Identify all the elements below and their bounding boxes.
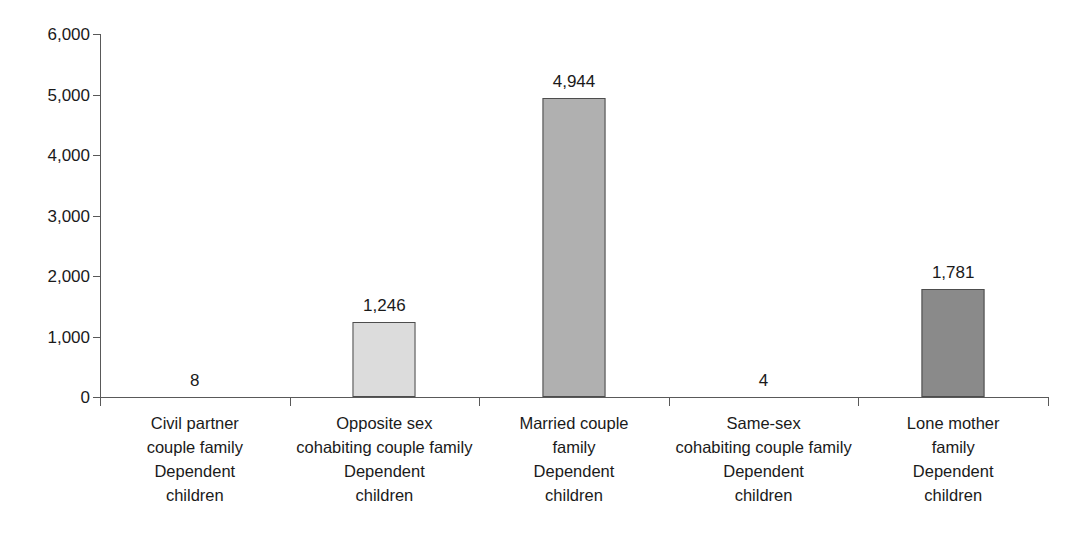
bar-group[interactable]: 4 — [669, 34, 859, 397]
x-axis-category-label: Opposite sexcohabiting couple familyDepe… — [290, 411, 480, 507]
category-label-line: children — [479, 483, 669, 507]
category-label-line: Civil partner — [100, 411, 290, 435]
category-label-line: Married couple — [479, 411, 669, 435]
bar-group[interactable]: 4,944 — [479, 34, 669, 397]
bar-value-label: 8 — [190, 372, 199, 389]
x-axis-category-label: Lone motherfamilyDependentchildren — [858, 411, 1048, 507]
y-axis-tick-label-text: 4,000 — [20, 147, 90, 164]
category-label-line: cohabiting couple family — [669, 435, 859, 459]
y-axis-tick-label-text: 0 — [20, 389, 90, 406]
category-label-line: Opposite sex — [290, 411, 480, 435]
category-label-line: Same-sex — [669, 411, 859, 435]
category-label-line: Lone mother — [858, 411, 1048, 435]
category-label-line: children — [290, 483, 480, 507]
y-axis-tick-label-text: 3,000 — [20, 208, 90, 225]
bar-value-label: 1,781 — [932, 264, 975, 281]
bar-group[interactable]: 1,781 — [858, 34, 1048, 397]
category-label-line: Dependent — [100, 459, 290, 483]
y-axis-tick-label-text: 1,000 — [20, 329, 90, 346]
bar-group[interactable]: 1,246 — [290, 34, 480, 397]
category-label-line: Dependent — [479, 459, 669, 483]
bar-value-label: 4,944 — [553, 73, 596, 90]
x-axis-tick — [100, 397, 101, 406]
bar-value-label: 4 — [759, 372, 768, 389]
x-axis-tick — [858, 397, 859, 406]
category-label-line: Dependent — [858, 459, 1048, 483]
category-label-line: Dependent — [669, 459, 859, 483]
plot-area: 81,2464,94441,781 — [100, 34, 1048, 397]
x-axis-category-label: Same-sexcohabiting couple familyDependen… — [669, 411, 859, 507]
category-label-line: children — [858, 483, 1048, 507]
x-axis-line — [100, 397, 1048, 398]
y-axis-tick-label: 1,000 — [14, 329, 90, 346]
y-axis-tick-label: 0 — [14, 389, 90, 406]
y-axis-tick-label-text: 2,000 — [20, 268, 90, 285]
bar-chart: 01,0002,0003,0004,0005,0006,000 81,2464,… — [0, 0, 1084, 542]
x-axis-tick — [1048, 397, 1049, 406]
x-axis-tick — [479, 397, 480, 406]
y-axis-tick-label: 2,000 — [14, 268, 90, 285]
y-axis-tick-label: 3,000 — [14, 208, 90, 225]
category-label-line: couple family — [100, 435, 290, 459]
y-axis-tick-label-text: 5,000 — [20, 87, 90, 104]
y-axis-tick-label: 6,000 — [14, 26, 90, 43]
category-label-line: family — [858, 435, 1048, 459]
category-label-line: children — [100, 483, 290, 507]
x-axis-category-label: Married couplefamilyDependentchildren — [479, 411, 669, 507]
x-axis-tick — [669, 397, 670, 406]
x-axis-category-labels: Civil partnercouple familyDependentchild… — [100, 411, 1048, 521]
y-axis-tick-label: 5,000 — [14, 87, 90, 104]
x-axis-category-label: Civil partnercouple familyDependentchild… — [100, 411, 290, 507]
bar[interactable] — [353, 322, 416, 397]
bar[interactable] — [542, 98, 605, 397]
category-label-line: Dependent — [290, 459, 480, 483]
category-label-line: family — [479, 435, 669, 459]
category-label-line: cohabiting couple family — [290, 435, 480, 459]
bar[interactable] — [922, 289, 985, 397]
y-axis-tick-label: 4,000 — [14, 147, 90, 164]
bar-group[interactable]: 8 — [100, 34, 290, 397]
category-label-line: children — [669, 483, 859, 507]
y-axis-tick-label-text: 6,000 — [20, 26, 90, 43]
bar-value-label: 1,246 — [363, 297, 406, 314]
x-axis-tick — [290, 397, 291, 406]
